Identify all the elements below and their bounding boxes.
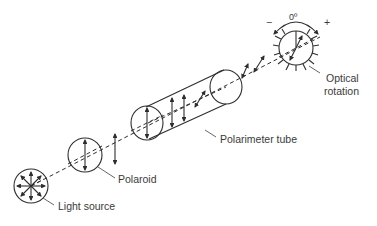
zero-degree-label: 0º xyxy=(289,12,298,22)
polaroid-leader xyxy=(98,167,115,178)
light-source-leader xyxy=(43,198,54,205)
optical-axis-line xyxy=(31,37,320,186)
analyzer-dial-icon xyxy=(273,22,319,71)
plus-sign-label: + xyxy=(324,16,330,28)
minus-sign-label: − xyxy=(266,16,272,28)
polaroid-icon xyxy=(68,138,102,172)
optical-rotation-leader xyxy=(309,66,320,73)
rotated-light-arrows xyxy=(242,56,264,78)
tube-leader xyxy=(205,130,216,137)
polarimeter-tube-label: Polarimeter tube xyxy=(220,133,297,145)
polarimeter-tube-icon xyxy=(131,70,242,140)
polarimeter-diagram: Light source Polaroid Polarimeter tube xyxy=(0,0,377,226)
optical-rotation-label-line1: Optical xyxy=(326,72,359,84)
light-source-label: Light source xyxy=(58,200,115,212)
polaroid-label: Polaroid xyxy=(118,173,157,185)
light-source-icon xyxy=(14,169,48,203)
optical-rotation-label-line2: rotation xyxy=(324,85,359,97)
